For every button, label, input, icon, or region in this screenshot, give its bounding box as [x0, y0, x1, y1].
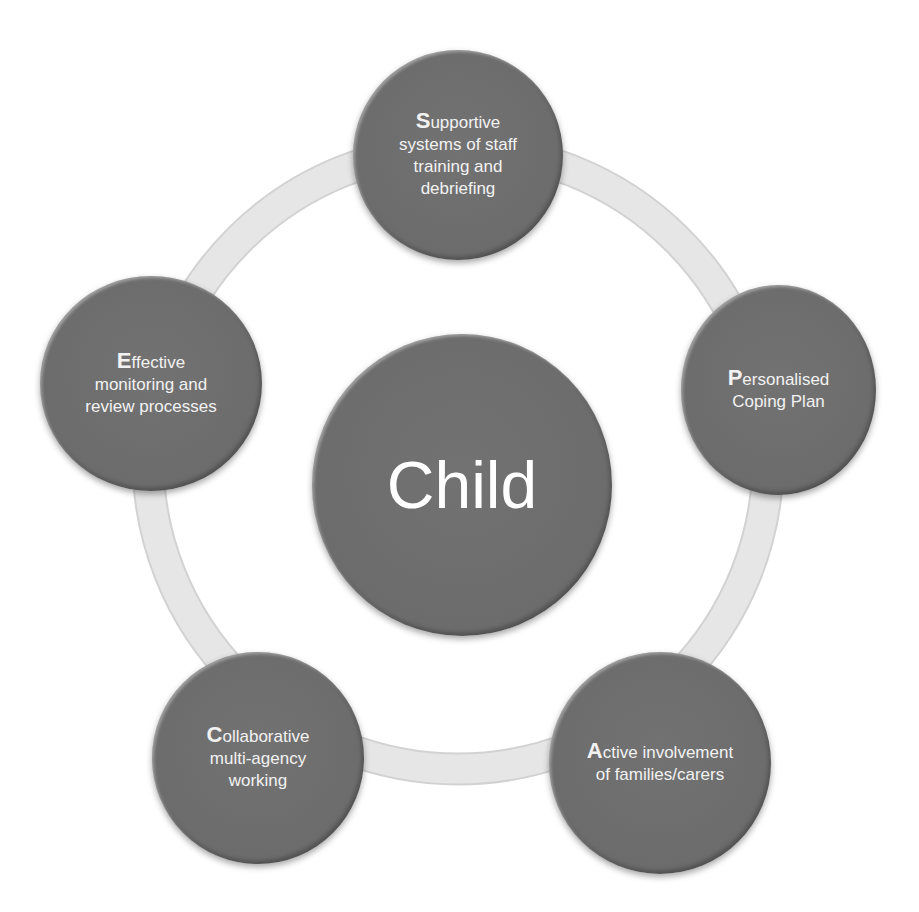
node-label: Supportive systems of staff training and… [385, 110, 531, 200]
center-label: Child [387, 447, 537, 523]
node-label-line: monitoring and [95, 375, 207, 394]
node-label-line: ctive involvement [603, 743, 733, 762]
node-initial: C [207, 722, 223, 747]
node-effective-monitoring: Effective monitoring and review processe… [40, 276, 262, 491]
node-label-line: ersonalised [742, 370, 829, 389]
center-node-child: Child [312, 334, 612, 636]
node-initial: A [587, 738, 603, 763]
node-label-line: review processes [85, 397, 216, 416]
node-supportive-systems: Supportive systems of staff training and… [353, 50, 563, 260]
node-label: Active involvement of families/carers [573, 740, 747, 786]
node-label: Personalised Coping Plan [714, 367, 844, 413]
node-label-line: of families/carers [596, 765, 724, 784]
node-label-line: multi-agency [210, 749, 306, 768]
node-collaborative-working: Collaborative multi-agency working [152, 652, 364, 864]
node-initial: P [728, 365, 743, 390]
node-label-line: systems of staff [399, 135, 517, 154]
node-label-line: upportive [430, 113, 500, 132]
node-label-line: debriefing [421, 179, 496, 198]
node-label: Effective monitoring and review processe… [71, 350, 230, 418]
node-label-line: ollaborative [222, 727, 309, 746]
node-personalised-coping-plan: Personalised Coping Plan [681, 285, 876, 495]
node-label: Collaborative multi-agency working [193, 724, 324, 792]
node-initial: E [117, 348, 132, 373]
node-initial: S [416, 108, 431, 133]
node-label-line: working [229, 771, 288, 790]
node-label-line: training and [414, 157, 503, 176]
node-label-line: ffective [132, 353, 186, 372]
node-label-line: Coping Plan [732, 392, 825, 411]
node-active-involvement: Active involvement of families/carers [549, 652, 771, 874]
